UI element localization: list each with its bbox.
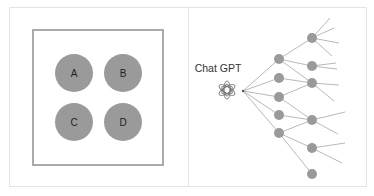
node-l1-5 <box>274 128 284 138</box>
node-l2-6 <box>307 169 317 179</box>
chatgpt-title: Chat GPT <box>195 62 242 74</box>
circle-b-label: B <box>120 68 127 79</box>
diagram-canvas: A B C D Chat GPT <box>0 0 374 196</box>
circle-d: D <box>104 103 142 141</box>
tree-nodes <box>274 33 317 179</box>
left-panel: A B C D <box>33 30 163 165</box>
circle-b: B <box>104 54 142 92</box>
node-l1-3 <box>274 92 284 102</box>
node-l1-2 <box>274 73 284 83</box>
circle-c: C <box>55 103 93 141</box>
node-l1-1 <box>274 54 284 64</box>
inner-box <box>33 30 163 165</box>
circle-a: A <box>55 54 93 92</box>
circle-c-label: C <box>70 117 77 128</box>
node-l2-4 <box>307 115 317 125</box>
openai-logo-icon <box>218 81 237 99</box>
node-l2-1 <box>307 33 317 43</box>
node-l2-5 <box>307 143 317 153</box>
circle-d-label: D <box>119 117 126 128</box>
node-l1-4 <box>274 110 284 120</box>
right-panel: Chat GPT <box>195 18 345 179</box>
circle-a-label: A <box>71 68 78 79</box>
node-l2-2 <box>307 61 317 71</box>
hub-point <box>242 90 244 92</box>
node-l2-3 <box>307 78 317 88</box>
tree-edges <box>243 18 345 174</box>
